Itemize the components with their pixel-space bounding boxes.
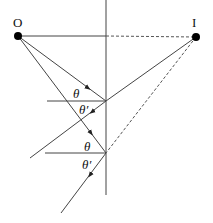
label-theta-2: θ bbox=[84, 139, 91, 154]
incident-ray-2 bbox=[18, 36, 106, 153]
line-I-to-R1 bbox=[106, 37, 196, 101]
incident-ray-1 bbox=[18, 36, 106, 101]
image-point-I bbox=[192, 33, 200, 41]
dashed-line-I-to-R2 bbox=[106, 37, 196, 153]
label-theta-1: θ bbox=[73, 86, 80, 101]
dashed-line-to-I bbox=[106, 36, 196, 37]
label-theta-prime-2: θ′ bbox=[82, 157, 91, 172]
label-I: I bbox=[192, 15, 196, 30]
label-O: O bbox=[13, 15, 22, 30]
reflected-ray-1 bbox=[30, 101, 106, 158]
label-theta-prime-1: θ′ bbox=[79, 102, 88, 117]
source-point-O bbox=[14, 32, 22, 40]
reflection-diagram: O I θ θ′ θ θ′ bbox=[0, 0, 213, 223]
